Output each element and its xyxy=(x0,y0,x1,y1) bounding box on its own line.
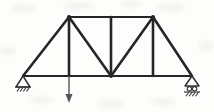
pin-support-hatch xyxy=(20,87,23,91)
roller-support-triangle xyxy=(185,76,199,86)
point-load-arrow xyxy=(66,76,73,103)
roller-support-hatch xyxy=(189,92,192,96)
roller-support-hatch xyxy=(186,92,189,96)
load-arrow-head xyxy=(66,94,73,103)
pin-support-triangle xyxy=(16,76,30,87)
pin-support-hatch xyxy=(27,87,30,91)
joint-top-left-node xyxy=(67,15,71,19)
pin-support-hatch xyxy=(17,87,20,91)
roller-support xyxy=(184,76,200,96)
roller-support-wheel xyxy=(192,87,196,91)
pin-support xyxy=(15,76,31,92)
truss-drawing xyxy=(0,0,214,112)
roller-support-hatch xyxy=(192,92,195,96)
roller-support-hatch xyxy=(196,92,199,96)
member-diagonal-web-F-C xyxy=(69,17,111,76)
truss-diagram-figure: Simply supported planar truss with singl… xyxy=(0,0,214,112)
joint-bottom-center-node xyxy=(109,74,113,78)
joint-top-right-node xyxy=(151,15,155,19)
member-inclined-end-post-left xyxy=(23,17,69,76)
member-diagonal-web-H-C xyxy=(111,17,153,76)
member-inclined-end-post-right xyxy=(153,17,192,76)
roller-support-wheel xyxy=(187,87,191,91)
truss-members-group xyxy=(23,17,192,76)
pin-support-hatch xyxy=(23,87,26,91)
